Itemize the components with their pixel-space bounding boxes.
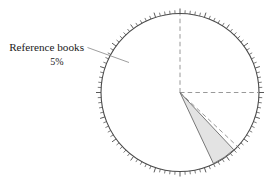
wedge-label-percent: 5% [50,56,63,67]
wedge-label-title: Reference books [9,41,84,53]
pie-chart-figure: Reference books 5% [0,0,270,183]
